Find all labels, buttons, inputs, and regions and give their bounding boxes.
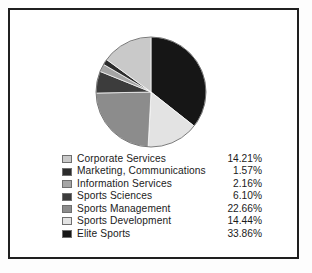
chart-legend: Corporate Services14.21%Marketing, Commu… <box>62 153 262 240</box>
legend-item: Marketing, Communications1.57% <box>62 165 262 177</box>
pie-chart-svg <box>95 36 207 148</box>
legend-item-label: Elite Sports <box>77 228 130 240</box>
legend-color-swatch <box>62 230 72 238</box>
legend-item-label: Marketing, Communications <box>77 165 206 177</box>
legend-color-swatch <box>62 180 72 188</box>
legend-item-label: Sports Development <box>77 215 171 227</box>
legend-item-value: 2.16% <box>233 178 262 190</box>
legend-item-value: 22.66% <box>227 203 262 215</box>
legend-item: Corporate Services14.21% <box>62 153 262 165</box>
pie-chart <box>95 36 207 148</box>
legend-color-swatch <box>62 205 72 213</box>
legend-item-value: 14.44% <box>227 215 262 227</box>
legend-item: Sports Development14.44% <box>62 215 262 227</box>
legend-item-value: 1.57% <box>233 165 262 177</box>
legend-item: Sports Sciences6.10% <box>62 190 262 202</box>
legend-item-label: Sports Management <box>77 203 170 215</box>
legend-color-swatch <box>62 168 72 176</box>
pie-slice-group <box>96 37 206 147</box>
legend-item-value: 6.10% <box>233 190 262 202</box>
legend-item: Elite Sports33.86% <box>62 228 262 240</box>
legend-item-value: 14.21% <box>227 153 262 165</box>
chart-frame: Corporate Services14.21%Marketing, Commu… <box>8 8 299 259</box>
figure-canvas: Corporate Services14.21%Marketing, Commu… <box>0 0 312 273</box>
legend-item-label: Information Services <box>77 178 172 190</box>
legend-item-value: 33.86% <box>227 228 262 240</box>
legend-color-swatch <box>62 217 72 225</box>
legend-color-swatch <box>62 155 72 163</box>
legend-item-label: Corporate Services <box>77 153 166 165</box>
legend-color-swatch <box>62 193 72 201</box>
legend-item: Sports Management22.66% <box>62 203 262 215</box>
legend-item: Information Services2.16% <box>62 178 262 190</box>
legend-item-label: Sports Sciences <box>77 190 152 202</box>
pie-slice <box>96 92 151 147</box>
